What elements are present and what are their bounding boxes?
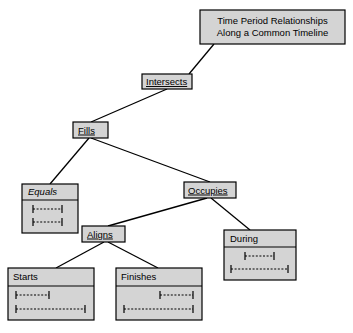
connector-fills-to-occupies <box>91 138 210 182</box>
node-occupies-label: Occupies <box>188 185 228 196</box>
node-fills[interactable]: Fills <box>73 122 108 138</box>
node-fills-label: Fills <box>78 125 95 136</box>
node-intersects-label: Intersects <box>146 76 187 87</box>
connector-fills-to-equals <box>50 138 89 184</box>
connector-occupies-to-aligns <box>108 198 207 226</box>
node-during[interactable]: During <box>224 230 296 280</box>
connector-occupies-to-during <box>211 198 250 230</box>
node-starts-label: Starts <box>13 271 38 282</box>
node-equals[interactable]: Equals <box>22 184 78 233</box>
node-equals-label: Equals <box>28 186 57 197</box>
node-aligns-label: Aligns <box>87 229 113 240</box>
node-during-label: During <box>230 233 258 244</box>
connector-title-to-intersects <box>189 44 214 74</box>
node-occupies[interactable]: Occupies <box>184 182 236 198</box>
title-line-1: Time Period Relationships <box>217 15 328 26</box>
node-starts[interactable]: Starts <box>8 268 94 320</box>
node-aligns[interactable]: Aligns <box>82 226 125 242</box>
connector-aligns-to-finishes <box>108 242 158 268</box>
title-box: Time Period Relationships Along a Common… <box>200 10 345 44</box>
node-finishes[interactable]: Finishes <box>116 268 202 320</box>
connector-aligns-to-starts <box>56 242 104 268</box>
connector-intersects-to-fills <box>91 89 167 122</box>
node-intersects[interactable]: Intersects <box>142 74 192 89</box>
title-line-2: Along a Common Timeline <box>217 27 328 38</box>
time-period-relationships-diagram: Time Period Relationships Along a Common… <box>0 0 353 333</box>
node-finishes-label: Finishes <box>121 271 157 282</box>
